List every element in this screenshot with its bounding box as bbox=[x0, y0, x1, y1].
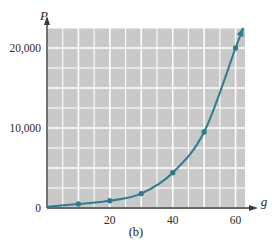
data-point-marker bbox=[201, 129, 206, 134]
y-axis-tick-labels: 010,00020,000 bbox=[9, 42, 41, 214]
data-point-marker bbox=[139, 191, 144, 196]
data-point-marker bbox=[233, 45, 238, 50]
x-axis-label: g bbox=[261, 194, 268, 209]
x-tick-label: 40 bbox=[167, 214, 179, 226]
exponential-growth-chart: P g 010,00020,000 204060 (b) bbox=[0, 0, 272, 248]
x-tick-label: 60 bbox=[230, 214, 242, 226]
data-point-marker bbox=[107, 198, 112, 203]
x-axis-arrowhead bbox=[249, 205, 258, 211]
y-tick-label: 10,000 bbox=[9, 122, 41, 135]
y-axis-label: P bbox=[39, 8, 48, 23]
data-point-marker bbox=[76, 201, 81, 206]
figure-caption: (b) bbox=[129, 225, 144, 239]
y-tick-label: 0 bbox=[35, 202, 41, 214]
y-tick-label: 20,000 bbox=[9, 42, 41, 55]
figure-panel: P g 010,00020,000 204060 (b) bbox=[0, 0, 272, 248]
data-point-marker bbox=[170, 170, 175, 175]
plot-area-background bbox=[47, 28, 245, 208]
x-tick-label: 20 bbox=[104, 214, 116, 226]
x-axis-tick-labels: 204060 bbox=[104, 214, 241, 226]
